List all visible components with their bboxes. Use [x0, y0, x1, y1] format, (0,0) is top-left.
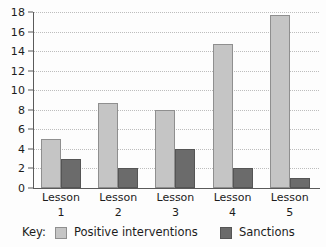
x-label-name: Lesson — [261, 190, 318, 205]
bar — [270, 15, 290, 188]
x-axis-category-label: Lesson1 — [32, 190, 89, 220]
bar — [41, 139, 61, 188]
x-label-name: Lesson — [90, 190, 147, 205]
bar — [61, 159, 81, 188]
legend-swatch-icon-positive-interventions — [55, 227, 67, 239]
y-tick-label: 12 — [11, 65, 25, 76]
legend-item-sanctions: Sanctions — [220, 227, 295, 239]
bar — [233, 168, 253, 188]
y-tick-label: 6 — [18, 124, 25, 135]
x-label-number: 1 — [32, 205, 89, 220]
y-axis-line — [33, 12, 34, 189]
bar-group — [205, 12, 262, 188]
x-label-number: 5 — [261, 205, 318, 220]
chart-legend: Key: Positive interventions Sanctions — [22, 227, 295, 239]
legend-label-positive-interventions: Positive interventions — [74, 227, 198, 239]
y-tick-label: 8 — [18, 104, 25, 115]
x-label-name: Lesson — [204, 190, 261, 205]
y-axis-labels: 024681012141618 — [0, 12, 31, 189]
x-axis-labels: Lesson1Lesson2Lesson3Lesson4Lesson5 — [33, 190, 320, 226]
x-label-name: Lesson — [147, 190, 204, 205]
x-label-name: Lesson — [32, 190, 89, 205]
bar — [155, 110, 175, 188]
y-tick-label: 16 — [11, 26, 25, 37]
y-tick-label: 4 — [18, 143, 25, 154]
bar-chart: 024681012141618 Lesson1Lesson2Lesson3Les… — [0, 0, 326, 247]
x-axis-category-label: Lesson4 — [204, 190, 261, 220]
y-tick-label: 2 — [18, 163, 25, 174]
bar — [213, 44, 233, 188]
plot-area — [33, 12, 319, 188]
x-label-number: 4 — [204, 205, 261, 220]
x-label-number: 3 — [147, 205, 204, 220]
x-axis-category-label: Lesson3 — [147, 190, 204, 220]
y-tick-label: 18 — [11, 7, 25, 18]
x-axis-category-label: Lesson2 — [90, 190, 147, 220]
x-axis-line — [33, 188, 320, 189]
bar — [118, 168, 138, 188]
bars-layer — [33, 12, 319, 188]
y-tick-label: 0 — [18, 183, 25, 194]
legend-item-positive-interventions: Positive interventions — [55, 227, 198, 239]
bar — [175, 149, 195, 188]
bar — [98, 103, 118, 188]
x-label-number: 2 — [90, 205, 147, 220]
bar-group — [33, 12, 90, 188]
x-axis-category-label: Lesson5 — [261, 190, 318, 220]
bar-group — [262, 12, 319, 188]
y-tick-label: 10 — [11, 85, 25, 96]
y-tick-label: 14 — [11, 46, 25, 57]
bar-group — [90, 12, 147, 188]
bar — [290, 178, 310, 188]
legend-swatch-icon-sanctions — [220, 227, 232, 239]
legend-title: Key: — [22, 227, 46, 239]
bar-group — [147, 12, 204, 188]
legend-label-sanctions: Sanctions — [239, 227, 295, 239]
